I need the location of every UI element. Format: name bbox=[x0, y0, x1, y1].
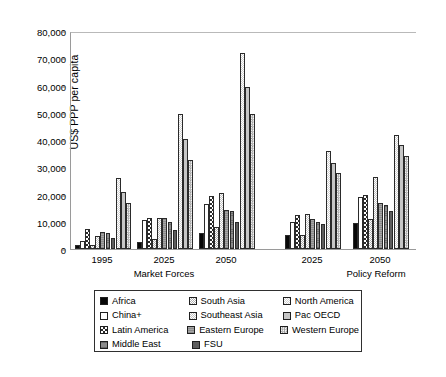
bar bbox=[224, 210, 229, 250]
legend-row: Middle EastFSU bbox=[100, 338, 356, 353]
y-tick-label: 0 bbox=[12, 245, 66, 256]
legend-item[interactable]: Eastern Europe bbox=[187, 326, 280, 335]
y-tick-mark bbox=[62, 250, 66, 251]
bar bbox=[310, 219, 315, 249]
legend-label: Western Europe bbox=[292, 326, 359, 335]
bar bbox=[147, 218, 152, 249]
legend-swatch-icon bbox=[189, 297, 197, 305]
bar bbox=[384, 205, 389, 249]
bar bbox=[209, 196, 214, 249]
legend-swatch-icon bbox=[100, 312, 108, 320]
y-tick-mark bbox=[62, 113, 66, 114]
bar bbox=[106, 233, 111, 249]
legend-item[interactable]: FSU bbox=[192, 340, 290, 349]
legend-item[interactable]: Southeast Asia bbox=[189, 311, 283, 320]
bar bbox=[188, 160, 193, 249]
legend-row: Latin AmericaEastern EuropeWestern Europ… bbox=[100, 323, 356, 338]
legend-label: Africa bbox=[112, 297, 136, 306]
plot-area bbox=[70, 32, 416, 250]
bar bbox=[199, 233, 204, 249]
bar bbox=[245, 87, 250, 249]
bar-group bbox=[285, 33, 341, 249]
bar bbox=[378, 203, 383, 249]
bar bbox=[373, 177, 378, 249]
bar bbox=[300, 235, 305, 249]
y-axis: 010,00020,00030,00040,00050,00060,00070,… bbox=[0, 0, 66, 377]
bar-group bbox=[137, 33, 193, 249]
bar bbox=[219, 193, 224, 249]
legend-item[interactable]: Pac OECD bbox=[283, 311, 356, 320]
bar bbox=[336, 173, 341, 249]
bar bbox=[363, 195, 368, 250]
legend-item[interactable]: Western Europe bbox=[280, 326, 356, 335]
legend-swatch-icon bbox=[283, 297, 291, 305]
bar bbox=[90, 245, 95, 249]
y-tick-label: 30,000 bbox=[12, 163, 66, 174]
y-tick-label: 70,000 bbox=[12, 54, 66, 65]
legend-row: China+Southeast AsiaPac OECD bbox=[100, 309, 356, 324]
legend-item[interactable]: China+ bbox=[100, 311, 189, 320]
legend-item[interactable]: Middle East bbox=[100, 340, 192, 349]
bar bbox=[173, 230, 178, 249]
y-tick-mark bbox=[62, 32, 66, 33]
bar bbox=[290, 222, 295, 249]
bar-group bbox=[353, 33, 409, 249]
legend-label: Latin America bbox=[112, 326, 168, 335]
legend-swatch-icon bbox=[187, 326, 195, 334]
bar bbox=[358, 197, 363, 249]
legend-swatch-icon bbox=[192, 341, 200, 349]
chart-figure: 010,00020,00030,00040,00050,00060,00070,… bbox=[0, 0, 446, 377]
bar bbox=[157, 218, 162, 249]
legend-item[interactable]: Africa bbox=[100, 297, 189, 306]
x-tick-label: 2050 bbox=[215, 254, 236, 265]
bar bbox=[368, 219, 373, 249]
y-tick-label: 10,000 bbox=[12, 217, 66, 228]
bar bbox=[204, 204, 209, 249]
bar bbox=[178, 114, 183, 249]
legend-swatch-icon bbox=[189, 312, 197, 320]
bar bbox=[326, 151, 331, 249]
chart-legend: AfricaSouth AsiaNorth AmericaChina+South… bbox=[94, 290, 362, 352]
y-tick-mark bbox=[62, 222, 66, 223]
bar bbox=[230, 211, 235, 249]
bar bbox=[235, 222, 240, 249]
bar bbox=[321, 224, 326, 249]
bar bbox=[404, 156, 409, 249]
y-tick-mark bbox=[62, 59, 66, 60]
bar bbox=[240, 53, 245, 249]
legend-label: FSU bbox=[204, 340, 223, 349]
legend-label: Eastern Europe bbox=[199, 326, 264, 335]
bar bbox=[399, 145, 404, 249]
bar-group bbox=[75, 33, 131, 249]
y-tick-label: 50,000 bbox=[12, 108, 66, 119]
y-tick-label: 80,000 bbox=[12, 27, 66, 38]
legend-swatch-icon bbox=[280, 326, 288, 334]
bar bbox=[111, 238, 116, 249]
legend-label: Pac OECD bbox=[295, 311, 340, 320]
bar bbox=[389, 211, 394, 249]
y-tick-mark bbox=[62, 195, 66, 196]
bar bbox=[331, 163, 336, 249]
legend-row: AfricaSouth AsiaNorth America bbox=[100, 294, 356, 309]
bar bbox=[316, 222, 321, 249]
scenario-label: Market Forces bbox=[134, 268, 195, 279]
bar bbox=[126, 203, 131, 249]
legend-item[interactable]: Latin America bbox=[100, 326, 187, 335]
y-tick-mark bbox=[62, 141, 66, 142]
legend-swatch-icon bbox=[283, 312, 291, 320]
x-tick-label: 1995 bbox=[91, 254, 112, 265]
x-tick-label: 2025 bbox=[301, 254, 322, 265]
legend-label: North America bbox=[295, 297, 354, 306]
scenario-label: Policy Reform bbox=[346, 268, 405, 279]
bar bbox=[305, 214, 310, 249]
legend-item[interactable]: South Asia bbox=[189, 297, 283, 306]
y-tick-label: 40,000 bbox=[12, 136, 66, 147]
legend-swatch-icon bbox=[100, 326, 108, 334]
bar bbox=[394, 135, 399, 249]
bar bbox=[285, 235, 290, 249]
bar bbox=[162, 218, 167, 249]
legend-label: China+ bbox=[112, 311, 142, 320]
bar bbox=[168, 222, 173, 249]
legend-item[interactable]: North America bbox=[283, 297, 356, 306]
bar bbox=[353, 223, 358, 249]
